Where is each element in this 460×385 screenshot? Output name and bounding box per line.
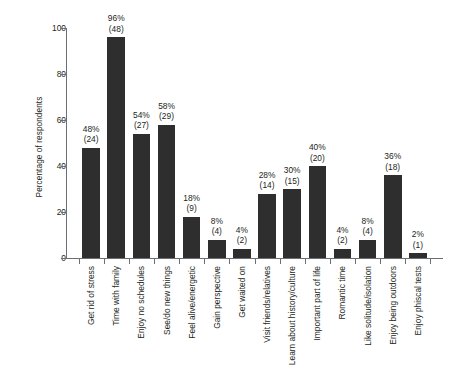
x-tick-mark <box>129 259 130 264</box>
bar-count: (1) <box>393 240 442 251</box>
bar-value-label: 2%(1) <box>393 229 442 250</box>
bar-percent: 2% <box>393 229 442 240</box>
category-label: Enjoy no schedules <box>135 266 148 385</box>
bar[interactable] <box>359 240 377 258</box>
category-label-slot: Enjoy being outdoors <box>380 266 405 385</box>
bar-group: 54%(27) <box>129 28 154 258</box>
x-tick-mark <box>280 259 281 264</box>
category-label: Romantic time <box>336 266 349 385</box>
x-tick-mark <box>179 259 180 264</box>
bar-group: 36%(18) <box>380 28 405 258</box>
bar[interactable] <box>258 194 276 258</box>
bar-group: 8%(4) <box>204 28 229 258</box>
bar-group: 48%(24) <box>79 28 104 258</box>
category-label-slot: Get rid of stress <box>79 266 104 385</box>
category-label: Enjoy being outdoors <box>386 266 399 385</box>
category-label-slot: Gain perspective <box>204 266 229 385</box>
category-label: Visit friends/relatives <box>261 266 274 385</box>
category-label: See/do new things <box>160 266 173 385</box>
x-tick-mark <box>380 259 381 264</box>
category-label: Time with family <box>110 266 123 385</box>
bar[interactable] <box>82 148 100 258</box>
bar[interactable] <box>107 37 125 258</box>
y-tick-mark <box>61 258 66 259</box>
category-label-slot: Feel alive/energetic <box>179 266 204 385</box>
category-label: Gain perspective <box>210 266 223 385</box>
y-tick-mark <box>61 28 66 29</box>
bar-group: 58%(29) <box>154 28 179 258</box>
category-label-slot: Romantic time <box>330 266 355 385</box>
bar[interactable] <box>283 189 301 258</box>
category-label: Like solitude/isolation <box>361 266 374 385</box>
bar-group: 28%(14) <box>255 28 280 258</box>
x-tick-mark <box>229 259 230 264</box>
category-label-slot: Enjoy no schedules <box>129 266 154 385</box>
x-tick-mark <box>154 259 155 264</box>
x-tick-mark <box>355 259 356 264</box>
bar-group: 8%(4) <box>355 28 380 258</box>
x-tick-mark <box>104 259 105 264</box>
bar-group: 96%(48) <box>104 28 129 258</box>
bar-percent: 96% <box>92 13 141 24</box>
x-tick-mark <box>204 259 205 264</box>
bar-group: 2%(1) <box>405 28 430 258</box>
plot-area: 48%(24)96%(48)54%(27)58%(29)18%(9)8%(4)4… <box>66 28 443 258</box>
category-label: Get waited on <box>235 266 248 385</box>
x-tick-mark <box>405 259 406 264</box>
x-tick-mark <box>330 259 331 264</box>
category-label: Enjoy phiscal tests <box>411 266 424 385</box>
category-label-slot: Enjoy phiscal tests <box>405 266 430 385</box>
x-tick-mark <box>305 259 306 264</box>
x-tick-mark <box>255 259 256 264</box>
bar[interactable] <box>409 253 427 258</box>
category-label-slot: Time with family <box>104 266 129 385</box>
category-label-slot: Get waited on <box>229 266 254 385</box>
category-label: Feel alive/energetic <box>185 266 198 385</box>
y-tick-mark <box>61 120 66 121</box>
bar-group: 4%(2) <box>229 28 254 258</box>
x-tick-mark <box>79 259 80 264</box>
x-axis-category-labels: Get rid of stressTime with familyEnjoy n… <box>66 266 443 385</box>
category-label-slot: Learn about history/culture <box>280 266 305 385</box>
bar[interactable] <box>158 125 176 258</box>
bar-group: 40%(20) <box>305 28 330 258</box>
category-label-slot: Like solitude/isolation <box>355 266 380 385</box>
bar[interactable] <box>334 249 352 258</box>
y-tick-mark <box>61 74 66 75</box>
bar-chart: Percentage of respondents 020406080100 4… <box>0 0 460 385</box>
y-tick-mark <box>61 166 66 167</box>
category-label-slot: Important part of life <box>305 266 330 385</box>
category-label-slot: See/do new things <box>154 266 179 385</box>
bar[interactable] <box>233 249 251 258</box>
bar[interactable] <box>133 134 151 258</box>
category-label-slot: Visit friends/relatives <box>255 266 280 385</box>
y-tick-mark <box>61 212 66 213</box>
x-tick-mark <box>430 259 431 264</box>
y-axis-title: Percentage of respondents <box>35 27 49 267</box>
category-label: Get rid of stress <box>85 266 98 385</box>
category-label: Learn about history/culture <box>286 266 299 385</box>
category-label: Important part of life <box>311 266 324 385</box>
